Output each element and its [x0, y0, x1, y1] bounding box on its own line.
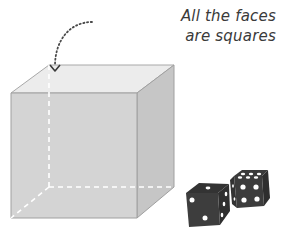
caption-line-2: are squares — [96, 26, 276, 46]
die-left-top-pip — [206, 187, 211, 190]
cube-front-face — [11, 93, 137, 218]
die-left — [186, 183, 230, 227]
annotation-arrow — [50, 22, 92, 71]
die-right — [230, 170, 270, 208]
caption-line-1: All the faces — [96, 6, 276, 26]
cube — [11, 65, 174, 218]
illustration: All the faces are squares — [0, 0, 282, 232]
annotation-caption: All the faces are squares — [96, 6, 276, 46]
